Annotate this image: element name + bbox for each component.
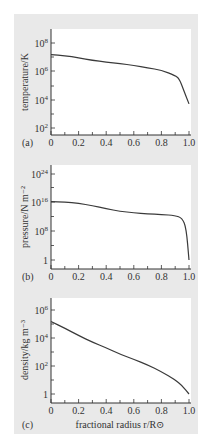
svg-text:1024: 1024 — [31, 168, 49, 180]
panel-c: 00.20.40.60.81.01102104106 (c) density/k… — [19, 298, 195, 431]
svg-text:102: 102 — [35, 122, 49, 134]
panel-b: 00.20.40.60.81.0110810161024 (b) pressur… — [19, 165, 195, 283]
svg-text:0: 0 — [49, 137, 54, 148]
svg-text:0.4: 0.4 — [100, 405, 113, 416]
svg-text:0.2: 0.2 — [72, 405, 85, 416]
svg-text:0.6: 0.6 — [128, 137, 141, 148]
panel-label-b: (b) — [22, 271, 34, 283]
svg-text:1: 1 — [43, 389, 48, 400]
svg-text:0.2: 0.2 — [72, 271, 85, 282]
svg-text:102: 102 — [35, 360, 49, 372]
svg-text:0.8: 0.8 — [155, 137, 168, 148]
svg-text:108: 108 — [35, 37, 49, 49]
plot-area-a — [51, 29, 191, 135]
svg-text:1.0: 1.0 — [183, 137, 196, 148]
svg-text:0: 0 — [49, 405, 54, 416]
figure-svg: 00.20.40.60.81.0102104106108 (a) tempera… — [0, 0, 206, 448]
svg-text:0.6: 0.6 — [128, 405, 141, 416]
svg-text:104: 104 — [35, 94, 49, 106]
svg-text:104: 104 — [35, 332, 49, 344]
panel-a: 00.20.40.60.81.0102104106108 (a) tempera… — [19, 29, 195, 149]
y-axis-label-a: temperature/K — [19, 52, 30, 111]
panel-label-a: (a) — [22, 137, 33, 149]
plot-area-c — [51, 298, 191, 403]
panel-label-c: (c) — [22, 419, 33, 431]
y-axis-label-c: density/kg m⁻³ — [19, 320, 30, 380]
svg-text:0.6: 0.6 — [128, 271, 141, 282]
svg-text:0.8: 0.8 — [155, 405, 168, 416]
x-axis-label: fractional radius r/R⊙ — [76, 419, 165, 430]
svg-text:0.2: 0.2 — [72, 137, 85, 148]
svg-text:106: 106 — [35, 65, 49, 77]
svg-text:108: 108 — [35, 225, 49, 237]
svg-text:1.0: 1.0 — [183, 405, 196, 416]
svg-text:106: 106 — [35, 304, 49, 316]
svg-text:0.4: 0.4 — [100, 137, 113, 148]
svg-text:0.4: 0.4 — [100, 271, 113, 282]
svg-text:1016: 1016 — [31, 196, 49, 208]
plot-area-b — [51, 165, 191, 269]
y-axis-label-b: pressure/N m⁻² — [19, 186, 30, 248]
svg-text:1: 1 — [43, 255, 48, 266]
svg-text:1.0: 1.0 — [183, 271, 196, 282]
svg-text:0: 0 — [49, 271, 54, 282]
svg-text:0.8: 0.8 — [155, 271, 168, 282]
